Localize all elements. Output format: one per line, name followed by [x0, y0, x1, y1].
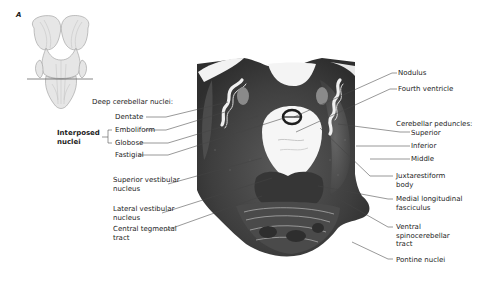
label-line: spinocerebellar — [396, 232, 450, 241]
label-superior-peduncle: Superior — [411, 129, 441, 138]
label-line: body — [396, 181, 445, 190]
label-ventral-spinocerebellar-tract: Ventral spinocerebellar tract — [396, 223, 450, 249]
label-pontine-nuclei: Pontine nuclei — [396, 256, 445, 265]
label-inferior-peduncle: Inferior — [411, 142, 436, 151]
label-line: tract — [396, 240, 450, 249]
label-lateral-vestibular-nucleus: Lateral vestibular nucleus — [113, 205, 174, 222]
label-middle-peduncle: Middle — [411, 155, 434, 164]
label-line: Medial longitudinal — [396, 195, 463, 204]
label-line: Juxtarestiform — [396, 172, 445, 181]
label-nodulus: Nodulus — [398, 69, 426, 78]
label-line: nucleus — [113, 214, 174, 223]
label-cerebellar-peduncles: Cerebellar peduncles: — [396, 120, 472, 129]
label-deep-cerebellar-nuclei: Deep cerebellar nuclei: — [92, 98, 173, 107]
label-interposed-nuclei: Interposed nuclei — [57, 129, 100, 146]
label-dentate: Dentate — [115, 113, 143, 122]
label-globose: Globose — [115, 139, 143, 148]
label-line: Lateral vestibular — [113, 205, 174, 214]
label-interposed-line1: Interposed — [57, 129, 100, 138]
label-fourth-ventricle: Fourth ventricle — [398, 85, 453, 94]
label-line: nucleus — [113, 185, 180, 194]
label-line: fasciculus — [396, 204, 463, 213]
label-medial-longitudinal-fasciculus: Medial longitudinal fasciculus — [396, 195, 463, 212]
label-juxtarestiform-body: Juxtarestiform body — [396, 172, 445, 189]
label-line: tract — [113, 234, 177, 243]
label-interposed-line2: nuclei — [57, 138, 100, 147]
label-fastigial: Fastigial — [115, 151, 144, 160]
label-emboliform: Emboliform — [115, 126, 155, 135]
label-superior-vestibular-nucleus: Superior vestibular nucleus — [113, 176, 180, 193]
label-line: Superior vestibular — [113, 176, 180, 185]
label-central-tegmental-tract: Central tegmental tract — [113, 225, 177, 242]
label-line: Ventral — [396, 223, 450, 232]
label-line: Central tegmental — [113, 225, 177, 234]
